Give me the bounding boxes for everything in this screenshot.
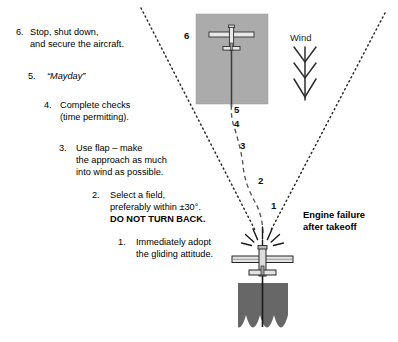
step-1-line-1: Immediately adopt xyxy=(136,236,211,248)
step-2-number: 2. xyxy=(92,189,100,201)
step-3-line-2: the approach as much xyxy=(76,154,167,166)
engine-failure-caption-line-1: Engine failure xyxy=(303,209,365,221)
waypoint-label-2: 2 xyxy=(258,176,263,186)
step-6-number: 6. xyxy=(16,26,24,38)
waypoint-label-6: 6 xyxy=(184,31,189,41)
step-6-line-2: and secure the aircraft. xyxy=(30,38,124,50)
cone-boundary-right xyxy=(270,13,385,232)
step-5-line-1: “Mayday” xyxy=(47,70,85,82)
step-5-number: 5. xyxy=(28,70,36,82)
diagram-graphics xyxy=(0,0,398,342)
waypoint-label-5: 5 xyxy=(234,105,239,115)
step-2-line-3-warning: DO NOT TURN BACK. xyxy=(110,213,205,225)
step-4-number: 4. xyxy=(44,99,52,111)
step-4-line-2: (time permitting). xyxy=(60,111,129,123)
diagram-canvas: 6. Stop, shut down, and secure the aircr… xyxy=(0,0,398,342)
step-3-line-3: into wind as possible. xyxy=(76,166,163,178)
aircraft-after-takeoff xyxy=(232,246,293,277)
step-3-number: 3. xyxy=(59,142,67,154)
waypoint-label-1: 1 xyxy=(271,201,276,211)
engine-failure-caption-line-2: after takeoff xyxy=(303,221,357,233)
waypoint-label-4: 4 xyxy=(234,119,239,129)
waypoint-label-3: 3 xyxy=(240,141,245,151)
step-2-line-2: preferably within ±30°. xyxy=(110,201,201,213)
wind-arrow xyxy=(294,47,316,100)
step-1-line-2: the gliding attitude. xyxy=(136,248,213,260)
step-4-line-1: Complete checks xyxy=(60,99,130,111)
step-2-line-1: Select a field, xyxy=(110,189,165,201)
step-1-number: 1. xyxy=(118,236,126,248)
step-6-line-1: Stop, shut down, xyxy=(30,26,98,38)
wind-label: Wind xyxy=(290,33,311,42)
step-3-line-1: Use flap – make xyxy=(76,142,142,154)
